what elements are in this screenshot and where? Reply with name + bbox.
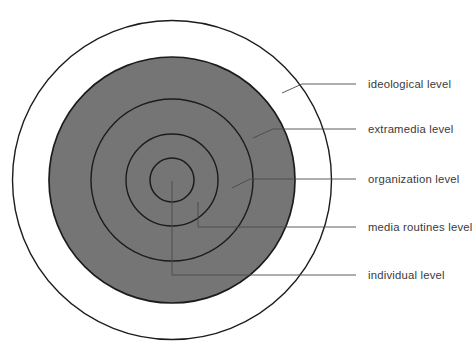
ideological-level-label: ideological level xyxy=(368,78,451,90)
hierarchy-of-influences-diagram: ideological level extramedia level organ… xyxy=(0,0,475,353)
diagram-canvas: ideological level extramedia level organ… xyxy=(0,0,475,353)
media-routines-level-label: media routines level xyxy=(368,221,472,233)
extramedia-level-label: extramedia level xyxy=(368,123,453,135)
organization-level-label: organization level xyxy=(368,173,460,185)
individual-level-label: individual level xyxy=(368,269,445,281)
